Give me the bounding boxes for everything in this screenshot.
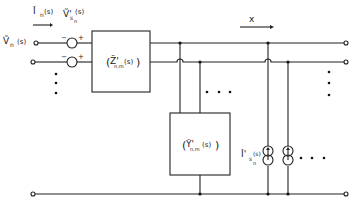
ellipsis-dot (323, 157, 326, 160)
admittance-matrix-box (170, 113, 230, 175)
ellipsis-dot (328, 82, 331, 85)
source-current-label: Ĩ' s n (s) (240, 149, 261, 166)
minus-sign: − (61, 53, 67, 61)
input-voltage-subscript: n (10, 41, 14, 48)
ellipsis-dot (328, 94, 331, 97)
source-current-subsubscript: n (253, 160, 256, 166)
source-current-subscript: s (249, 155, 252, 162)
terminal-icon (344, 60, 348, 64)
input-voltage-arg: (s) (17, 38, 26, 46)
terminal-icon (34, 41, 38, 45)
ellipsis-dot (206, 91, 209, 94)
admittance-subscript: n,m (190, 146, 200, 152)
position-axis-label: x (249, 14, 255, 24)
input-current-arrow-icon (50, 23, 53, 27)
source-current-arg: (s) (253, 150, 261, 157)
admittance-arg: (s) (202, 141, 211, 149)
paren-close: ) (136, 56, 140, 69)
current-source-icon (263, 146, 273, 165)
impedance-subscript: n,m (114, 63, 124, 69)
input-current-symbol: Ĩ (32, 6, 36, 16)
circuit-diagram: Ĩ n (s) Ṽ' s n (s) Ṽ n (s) − + − + ( … (0, 0, 357, 206)
ellipsis-dot (328, 71, 331, 74)
impedance-arg: (s) (124, 58, 133, 66)
admittance-matrix-label: ( Ỹ' n,m (s) ) (182, 139, 219, 152)
paren-close: ) (215, 139, 219, 152)
voltage-source-icon (67, 38, 77, 48)
source-voltage-subscript: s (70, 14, 73, 21)
input-voltage-label: Ṽ n (s) (3, 35, 26, 48)
ellipsis-dot (300, 157, 303, 160)
source-voltage-label: Ṽ' s n (s) (63, 8, 84, 24)
ellipsis-dot (55, 92, 58, 95)
bus-wire-2 (150, 59, 344, 62)
voltage-source-icon (67, 57, 77, 67)
source-voltage-arg: (s) (75, 8, 84, 16)
junction-dot-icon (286, 192, 289, 195)
terminal-icon (31, 60, 35, 64)
terminal-icon (31, 192, 35, 196)
source-voltage-subsubscript: n (74, 18, 77, 24)
ellipsis-dot (311, 157, 314, 160)
minus-sign: − (61, 34, 67, 42)
terminal-icon (344, 41, 348, 45)
ellipsis-dot (55, 73, 58, 76)
ellipsis-dot (218, 91, 221, 94)
junction-dot-icon (198, 192, 201, 195)
impedance-matrix-label: ( Z̃' n,m (s) ) (106, 55, 140, 69)
current-source-icon (283, 146, 293, 165)
plus-sign: + (78, 34, 84, 42)
input-current-label: Ĩ n (s) (32, 6, 53, 27)
impedance-matrix-box (92, 31, 150, 92)
input-voltage-symbol: Ṽ (3, 35, 10, 46)
junction-dot-icon (266, 192, 269, 195)
terminal-icon (344, 192, 348, 196)
input-current-arg: (s) (44, 8, 53, 16)
source-current-symbol: Ĩ' (240, 149, 246, 159)
plus-sign: + (78, 53, 84, 61)
position-axis-arrow-icon (270, 25, 274, 29)
ellipsis-dot (229, 91, 232, 94)
ellipsis-dot (55, 82, 58, 85)
